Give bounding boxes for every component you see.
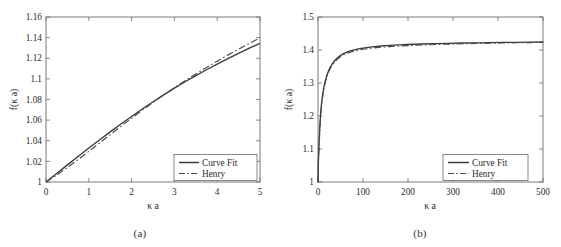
- x-tick-label: 400: [491, 187, 505, 197]
- x-tick-label: 1: [86, 187, 91, 197]
- x-tick-label: 0: [316, 187, 321, 197]
- panel-caption-b: (b): [280, 227, 560, 239]
- y-axis-title-a: f(κ a): [8, 89, 20, 111]
- panel-b-plot: 1 1.1 1.2 1.3 1.4 1.5 0 100 200 300 400 …: [280, 0, 561, 247]
- legend-label-curve-fit-a: Curve Fit: [202, 158, 238, 168]
- y-tick-label: 1.08: [26, 95, 43, 105]
- y-tick-label: 1.12: [26, 53, 43, 63]
- y-tick-label: 1.02: [26, 157, 43, 167]
- y-tick-labels-b: 1 1.1 1.2 1.3 1.4 1.5: [302, 12, 314, 187]
- legend-label-henry-a: Henry: [202, 169, 226, 179]
- y-tick-label: 1.5: [302, 12, 314, 22]
- y-tick-label: 1.2: [302, 111, 314, 121]
- x-tick-label: 2: [129, 187, 134, 197]
- figure-container: 1 1.02 1.04 1.06 1.08 1.1 1.12 1.14 1.16…: [0, 0, 561, 247]
- panel-a: 1 1.02 1.04 1.06 1.08 1.1 1.12 1.14 1.16…: [0, 0, 280, 247]
- x-tick-labels-b: 0 100 200 300 400 500: [316, 187, 551, 197]
- x-tick-label: 5: [258, 187, 263, 197]
- y-tick-label: 1.1: [302, 144, 314, 154]
- x-tick-label: 300: [446, 187, 460, 197]
- panel-a-plot: 1 1.02 1.04 1.06 1.08 1.1 1.12 1.14 1.16…: [0, 0, 280, 247]
- y-tick-label: 1.4: [302, 45, 314, 55]
- y-tick-label: 1.06: [26, 115, 43, 125]
- y-tick-label: 1.14: [26, 33, 43, 43]
- x-tick-label: 3: [172, 187, 177, 197]
- x-tick-labels-a: 0 1 2 3 4 5: [44, 187, 263, 197]
- y-tick-label: 1: [37, 177, 42, 187]
- x-tick-label: 100: [356, 187, 370, 197]
- x-tick-label: 200: [401, 187, 415, 197]
- legend-label-henry-b: Henry: [472, 169, 496, 179]
- x-tick-label: 0: [44, 187, 49, 197]
- y-tick-label: 1.16: [26, 12, 43, 22]
- y-tick-label: 1: [309, 177, 314, 187]
- y-tick-label: 1.3: [302, 78, 314, 88]
- legend-label-curve-fit-b: Curve Fit: [472, 158, 508, 168]
- y-tick-label: 1.1: [30, 74, 42, 84]
- x-axis-title-a: κ a: [147, 200, 159, 211]
- x-tick-label: 4: [215, 187, 220, 197]
- legend-a: Curve Fit Henry: [174, 155, 257, 181]
- y-axis-title-b: f(κ a): [283, 89, 295, 111]
- y-tick-label: 1.04: [26, 136, 43, 146]
- panel-b: 1 1.1 1.2 1.3 1.4 1.5 0 100 200 300 400 …: [280, 0, 560, 247]
- panel-caption-a: (a): [0, 227, 280, 239]
- x-axis-title-b: κ a: [424, 200, 436, 211]
- y-tick-labels-a: 1 1.02 1.04 1.06 1.08 1.1 1.12 1.14 1.16: [26, 12, 43, 187]
- x-tick-label: 500: [536, 187, 550, 197]
- legend-b: Curve Fit Henry: [443, 155, 528, 181]
